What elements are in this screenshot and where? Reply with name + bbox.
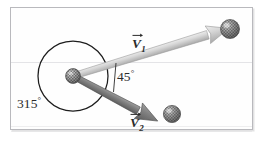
textured-sphere-v1-tip [221, 20, 240, 39]
vector-label-v2-symbol: V [130, 115, 139, 130]
vector-label-v1: V1 [132, 37, 146, 51]
textured-sphere-v2-tip [163, 105, 180, 122]
vector-label-v1-subscript: 1 [141, 44, 146, 54]
degree-symbol: ° [38, 95, 42, 105]
vector-label-v1-wrap: V [132, 37, 141, 51]
textured-sphere-origin [66, 69, 81, 84]
vector-label-v2: V2 [130, 116, 144, 130]
vector-label-v2-wrap: V [130, 116, 139, 130]
vector-v2-arrow [69, 68, 162, 129]
vector-overbar-arrow-icon [132, 32, 143, 37]
angle-label-45: 45° [117, 70, 134, 84]
vector-label-v1-symbol: V [132, 36, 141, 51]
angle-label-315: 315° [17, 97, 41, 111]
vector-overbar-arrow-icon [130, 111, 141, 116]
angle-label-315-value: 315 [17, 96, 38, 111]
vector-label-v2-subscript: 2 [139, 123, 144, 133]
figure-root: 315° 45° V1 V2 [0, 0, 270, 144]
degree-symbol: ° [131, 68, 135, 78]
angle-label-45-value: 45 [117, 69, 131, 84]
vector-v1-arrow [70, 20, 231, 85]
